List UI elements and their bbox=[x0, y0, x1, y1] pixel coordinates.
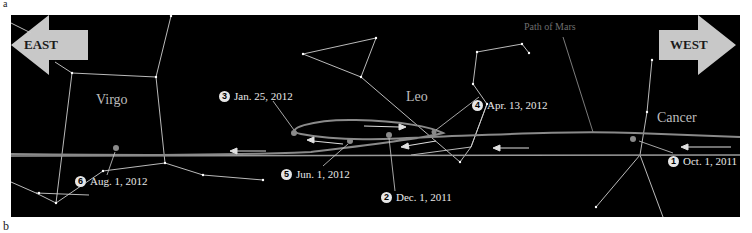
number-badge-4: 4 bbox=[472, 100, 483, 111]
motion-arrow-icon bbox=[364, 124, 406, 130]
mars-position-5-dot bbox=[347, 138, 353, 144]
figure-letter-a: a bbox=[3, 0, 7, 9]
mars-position-4-dot bbox=[432, 130, 437, 135]
number-badge-5: 5 bbox=[281, 169, 292, 180]
mars-position-3-dot bbox=[291, 130, 297, 136]
east-label: EAST bbox=[24, 37, 58, 53]
motion-arrow-icon bbox=[681, 144, 731, 150]
motion-arrow-icon bbox=[401, 141, 436, 149]
mars-position-2-dot bbox=[386, 132, 392, 138]
path-of-mars-label: Path of Mars bbox=[524, 21, 576, 32]
cancer-constellation bbox=[596, 60, 663, 217]
cancer-label: Cancer bbox=[657, 110, 697, 126]
virgo-label: Virgo bbox=[96, 92, 128, 108]
number-badge-3: 3 bbox=[219, 91, 230, 102]
position-6-label: 6Aug. 1, 2012 bbox=[75, 175, 147, 187]
motion-arrow-icon bbox=[493, 145, 529, 151]
position-4-label: 4Apr. 13, 2012 bbox=[472, 99, 548, 111]
position-1-label: 1Oct. 1, 2011 bbox=[668, 155, 737, 167]
figure-letter-b: b bbox=[3, 219, 9, 233]
leo-label: Leo bbox=[406, 89, 428, 105]
mars-position-1-dot bbox=[630, 136, 636, 142]
sky-chart-panel: EAST WEST Virgo Leo Cancer Path of Mars … bbox=[11, 15, 740, 217]
position-3-label: 3Jan. 25, 2012 bbox=[219, 90, 293, 102]
number-badge-2: 2 bbox=[381, 192, 392, 203]
number-badge-6: 6 bbox=[75, 176, 86, 187]
position-2-label: 2Dec. 1, 2011 bbox=[381, 191, 452, 203]
mars-position-6-dot bbox=[113, 145, 119, 151]
number-badge-1: 1 bbox=[668, 156, 679, 167]
position-5-label: 5Jun. 1, 2012 bbox=[281, 168, 350, 180]
path-label-leader bbox=[563, 37, 593, 132]
west-label: WEST bbox=[670, 37, 708, 53]
